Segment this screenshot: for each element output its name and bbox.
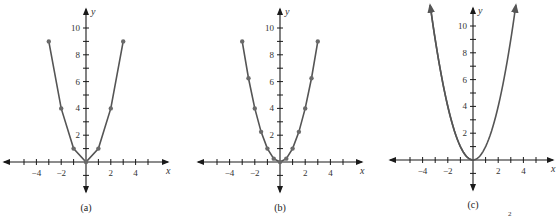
y-tick-label: 6 — [270, 77, 275, 87]
x-axis-label: x — [165, 165, 171, 176]
panel-caption: (b) — [274, 202, 286, 214]
y-tick-label: 2 — [463, 128, 468, 138]
y-tick-label: 4 — [463, 101, 468, 111]
x-tick-label: −4 — [32, 168, 42, 178]
y-tick-label: 10 — [458, 21, 468, 31]
panel-caption: (a) — [80, 202, 91, 214]
y-axis-label: y — [90, 6, 96, 17]
panel-b: −4−224246810xy(b) — [198, 6, 365, 214]
y-tick-label: 10 — [71, 23, 81, 33]
panel-caption: (c) — [467, 199, 478, 211]
data-point — [71, 146, 75, 150]
data-point — [259, 130, 263, 134]
data-point — [316, 39, 320, 43]
data-point — [84, 160, 88, 164]
x-axis-label: x — [550, 163, 556, 174]
y-tick-label: 2 — [76, 130, 81, 140]
data-point — [96, 146, 100, 150]
y-tick-label: 6 — [76, 77, 81, 87]
x-tick-label: −2 — [250, 168, 260, 178]
y-tick-label: 6 — [463, 75, 468, 85]
x-tick-label: 4 — [521, 166, 526, 176]
data-point — [246, 76, 250, 80]
y-axis-label: y — [477, 5, 483, 16]
data-point — [121, 39, 125, 43]
panel-a: −4−224246810xy(a) — [4, 6, 171, 214]
x-tick-label: 2 — [303, 168, 308, 178]
x-tick-label: 2 — [109, 168, 114, 178]
y-tick-label: 10 — [265, 23, 275, 33]
x-tick-label: 4 — [133, 168, 138, 178]
data-point — [290, 146, 294, 150]
x-tick-label: 2 — [496, 166, 501, 176]
y-tick-label: 8 — [76, 50, 81, 60]
y-tick-label: 8 — [270, 50, 275, 60]
x-tick-label: −4 — [225, 168, 235, 178]
data-point — [284, 156, 288, 160]
y-tick-label: 2 — [270, 130, 275, 140]
data-point — [240, 39, 244, 43]
x-axis-label: x — [359, 165, 365, 176]
y-axis-label: y — [284, 6, 290, 17]
figure: −4−224246810xy(a) −4−224246810xy(b) −4−2… — [0, 0, 557, 217]
y-tick-label: 4 — [76, 103, 81, 113]
x-tick-label: −2 — [443, 166, 453, 176]
data-point — [297, 130, 301, 134]
x-tick-label: −2 — [56, 168, 66, 178]
y-tick-label: 8 — [463, 48, 468, 58]
panel-c: −4−224246810xy(c) — [390, 5, 556, 211]
footer-fragment: 2 — [508, 210, 512, 217]
data-point — [265, 146, 269, 150]
data-point — [278, 160, 282, 164]
data-point — [47, 39, 51, 43]
data-point — [309, 76, 313, 80]
x-tick-label: −4 — [418, 166, 428, 176]
data-point — [109, 106, 113, 110]
data-point — [253, 106, 257, 110]
data-point — [59, 106, 63, 110]
data-point — [303, 106, 307, 110]
x-tick-label: 4 — [328, 168, 333, 178]
y-tick-label: 4 — [270, 103, 275, 113]
data-point — [272, 156, 276, 160]
